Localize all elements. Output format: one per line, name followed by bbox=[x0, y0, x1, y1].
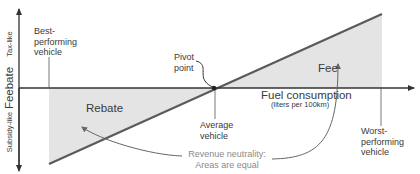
rebate-label: Rebate bbox=[86, 102, 123, 114]
average-label-1: Average bbox=[200, 120, 233, 130]
y-axis-label: Feebate bbox=[3, 67, 15, 109]
best-label-2: performing bbox=[34, 37, 77, 47]
pivot-label-2: point bbox=[174, 63, 194, 73]
x-axis-unit: (liters per 100km) bbox=[271, 100, 330, 109]
neutrality-label-1: Revenue neutrality: bbox=[188, 149, 266, 159]
pivot-label-1: Pivot bbox=[174, 52, 195, 62]
fee-label: Fee bbox=[318, 62, 338, 74]
worst-label-3: vehicle bbox=[361, 147, 389, 157]
pivot-pointer bbox=[196, 61, 213, 87]
best-label-3: vehicle bbox=[34, 47, 62, 57]
best-label-1: Best- bbox=[34, 26, 55, 36]
neutrality-label-2: Areas are equal bbox=[195, 160, 259, 170]
average-label-2: vehicle bbox=[200, 131, 228, 141]
feebate-diagram: Tax-like Feebate Subsidy-like Best- perf… bbox=[0, 0, 420, 174]
worst-label-2: performing bbox=[361, 137, 404, 147]
y-top-label: Tax-like bbox=[5, 31, 14, 56]
worst-label-1: Worst- bbox=[361, 126, 387, 136]
y-bottom-label: Subsidy-like bbox=[5, 112, 14, 152]
